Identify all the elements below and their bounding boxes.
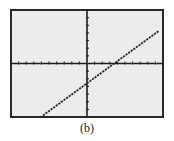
figure-caption: (b)	[0, 121, 174, 136]
graphing-calculator-plot	[0, 0, 174, 141]
